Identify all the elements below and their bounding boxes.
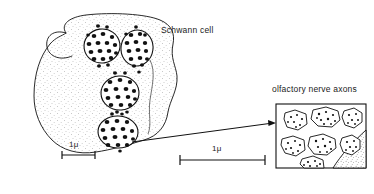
scale-bar-inset bbox=[180, 155, 265, 165]
inset-panel bbox=[276, 104, 366, 168]
label-schwann-cell: Schwann cell bbox=[161, 25, 213, 35]
scale-bar-overview-label: 1μ bbox=[69, 140, 78, 149]
overview-panel bbox=[34, 14, 177, 153]
label-olfactory-nerve-axons: olfactory nerve axons bbox=[272, 84, 357, 94]
scale-bar-inset-label: 1μ bbox=[212, 144, 221, 153]
